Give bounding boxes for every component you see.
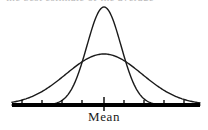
- curve-group: [12, 7, 200, 105]
- normal-distributions-figure: the best estimate of the average Mean: [0, 0, 208, 130]
- mean-axis-label: Mean: [0, 109, 208, 125]
- narrow-tall-distribution-curve: [12, 7, 200, 105]
- wide-flat-distribution-curve: [12, 54, 200, 103]
- cut-off-caption-text: the best estimate of the average: [6, 0, 196, 1]
